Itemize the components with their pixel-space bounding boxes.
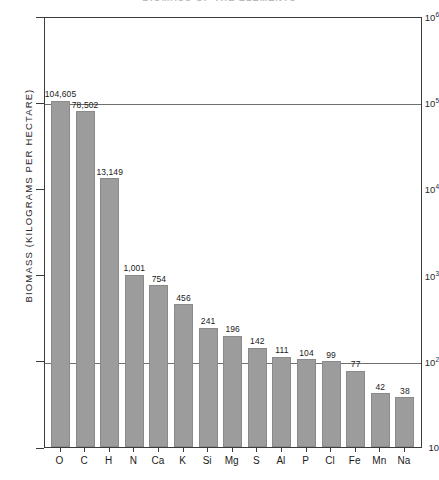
bar[interactable] bbox=[223, 336, 242, 447]
x-axis-tick bbox=[158, 448, 159, 452]
x-axis-tick bbox=[109, 448, 110, 452]
y-axis-tick bbox=[36, 361, 44, 362]
bar-group: 104,605 bbox=[51, 16, 70, 447]
x-axis-tick bbox=[207, 448, 208, 452]
y-axis-tick bbox=[36, 17, 44, 18]
bar-value-label: 99 bbox=[326, 350, 336, 360]
bar-group: 13,149 bbox=[100, 16, 119, 447]
y-axis-tick bbox=[36, 189, 44, 190]
y-axis-title: BIOMASS (KILOGRAMS PER HECTARE) bbox=[23, 71, 34, 321]
bar[interactable] bbox=[76, 111, 95, 447]
y-axis-tick bbox=[36, 103, 44, 104]
bar-value-label: 456 bbox=[176, 293, 190, 303]
bar-group: 42 bbox=[371, 16, 390, 447]
bar-group: 111 bbox=[272, 16, 291, 447]
bar[interactable] bbox=[174, 304, 193, 447]
figure: BIOMASS OF THE ELEMENTS BIOMASS (KILOGRA… bbox=[0, 0, 439, 480]
bar[interactable] bbox=[51, 101, 70, 447]
plot-area: 104,60578,50213,1491,0017544562411961421… bbox=[44, 17, 422, 448]
bar[interactable] bbox=[272, 357, 291, 447]
x-axis-tick bbox=[379, 448, 380, 452]
x-axis-tick-label: Na bbox=[389, 455, 419, 466]
x-axis-tick bbox=[183, 448, 184, 452]
bar[interactable] bbox=[248, 348, 267, 447]
bar-group: 241 bbox=[199, 16, 218, 447]
page-title: BIOMASS OF THE ELEMENTS bbox=[0, 0, 439, 3]
x-axis-tick bbox=[256, 448, 257, 452]
bar[interactable] bbox=[199, 328, 218, 447]
bar-group: 99 bbox=[322, 16, 341, 447]
x-axis-tick bbox=[306, 448, 307, 452]
bar-group: 142 bbox=[248, 16, 267, 447]
x-axis-tick bbox=[232, 448, 233, 452]
bar-group: 78,502 bbox=[76, 16, 95, 447]
bar-value-label: 104,605 bbox=[45, 89, 76, 99]
bar-group: 196 bbox=[223, 16, 242, 447]
bar-value-label: 104 bbox=[299, 348, 313, 358]
x-axis-tick bbox=[281, 448, 282, 452]
x-axis-tick bbox=[330, 448, 331, 452]
bar-group: 456 bbox=[174, 16, 193, 447]
x-axis-tick bbox=[404, 448, 405, 452]
y-axis-tick bbox=[36, 448, 44, 449]
bar-value-label: 754 bbox=[152, 274, 166, 284]
bar[interactable] bbox=[322, 361, 341, 447]
x-axis-tick bbox=[355, 448, 356, 452]
bar-group: 104 bbox=[297, 16, 316, 447]
bar[interactable] bbox=[100, 178, 119, 447]
bar-group: 38 bbox=[395, 16, 414, 447]
bar[interactable] bbox=[297, 359, 316, 447]
bar-value-label: 1,001 bbox=[123, 263, 145, 273]
y-axis-tick bbox=[36, 275, 44, 276]
bar[interactable] bbox=[149, 285, 168, 447]
bar[interactable] bbox=[125, 275, 144, 447]
x-axis-tick bbox=[60, 448, 61, 452]
bar-group: 754 bbox=[149, 16, 168, 447]
bar[interactable] bbox=[346, 371, 365, 447]
bar-value-label: 77 bbox=[351, 359, 361, 369]
bar-group: 1,001 bbox=[125, 16, 144, 447]
bar-value-label: 241 bbox=[201, 316, 215, 326]
bar-value-label: 142 bbox=[250, 336, 264, 346]
x-axis-tick bbox=[84, 448, 85, 452]
bar-value-label: 13,149 bbox=[96, 167, 123, 177]
bar-value-label: 78,502 bbox=[72, 100, 99, 110]
bar[interactable] bbox=[395, 397, 414, 447]
bar-value-label: 196 bbox=[225, 324, 239, 334]
bar-value-label: 111 bbox=[275, 345, 288, 355]
bar[interactable] bbox=[371, 393, 390, 447]
bar-value-label: 42 bbox=[375, 382, 385, 392]
x-axis-tick bbox=[133, 448, 134, 452]
bar-value-label: 38 bbox=[400, 386, 410, 396]
bar-group: 77 bbox=[346, 16, 365, 447]
